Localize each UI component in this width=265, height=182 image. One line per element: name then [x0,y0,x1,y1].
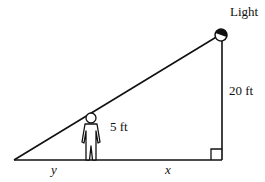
pole-height-label: 20 ft [229,83,254,98]
light-ray-line [14,36,218,160]
shadow-length-label: y [49,162,57,177]
light-icon [213,27,228,42]
similar-triangles-diagram: Light 20 ft 5 ft y x [0,0,265,182]
person-icon [82,113,100,160]
light-label: Light [230,4,259,19]
person-height-label: 5 ft [110,119,128,134]
right-angle-marker [211,149,222,160]
distance-label: x [164,162,171,177]
